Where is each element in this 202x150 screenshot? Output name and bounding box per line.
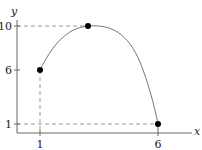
- function-plot: y x 10 6 1 1 6: [0, 0, 202, 150]
- plot-svg: y x 10 6 1 1 6: [0, 0, 202, 150]
- y-tick-label-10: 10: [0, 20, 12, 33]
- function-curve: [40, 26, 158, 124]
- y-tick-label-6: 6: [5, 64, 12, 77]
- point-1-6: [37, 67, 43, 73]
- point-3-10: [85, 23, 91, 29]
- x-axis-label: x: [194, 125, 201, 138]
- point-6-1: [155, 121, 161, 127]
- y-axis-label: y: [10, 5, 18, 18]
- x-tick-label-6: 6: [155, 138, 162, 150]
- x-tick-label-1: 1: [37, 138, 44, 150]
- y-tick-label-1: 1: [5, 118, 12, 131]
